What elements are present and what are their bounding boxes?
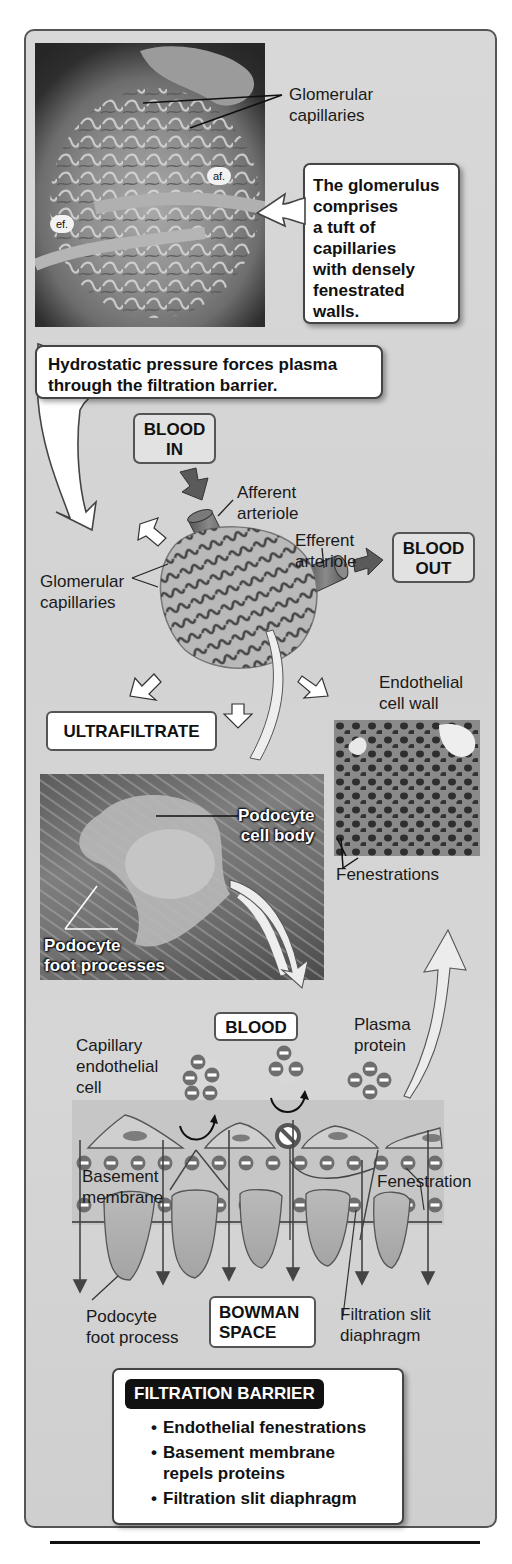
protein-cluster-1: [183, 1055, 222, 1101]
filtration-barrier-title: FILTRATION BARRIER: [125, 1379, 324, 1409]
label-basement-membrane: Basement membrane: [82, 1166, 163, 1208]
label-fenestration: Fenestration: [377, 1171, 472, 1192]
filtrate-arrow-upleft: [138, 518, 166, 546]
label-glomerular-capillaries-diagram: Glomerular capillaries: [40, 571, 124, 613]
filtration-barrier-box: FILTRATION BARRIER Endothelial fenestrat…: [112, 1368, 404, 1525]
filtrate-arrow-downleft: [130, 674, 161, 700]
arrow-podocyte-to-barrier: [230, 880, 330, 990]
barrier-item-fenestrations: Endothelial fenestrations: [151, 1417, 402, 1438]
blood-out-arrow: [353, 548, 383, 575]
filtrate-arrow-down: [224, 704, 252, 728]
label-podocyte-cell-body: Podocyte cell body: [238, 806, 315, 846]
ultrafiltrate-box: ULTRAFILTRATE: [46, 711, 217, 751]
endothelial-micrograph: [334, 720, 480, 856]
barrier-item-slit-diaphragm: Filtration slit diaphragm: [151, 1488, 402, 1509]
pressure-callout: Hydrostatic pressure forces plasma throu…: [35, 345, 383, 399]
label-glomerular-capillaries-top: Glomerular capillaries: [289, 84, 373, 126]
protein-cluster-3: [348, 1062, 392, 1100]
label-fenestrations: Fenestrations: [336, 864, 439, 885]
protein-cluster-2: [269, 1046, 304, 1085]
bowman-space-box: BOWMAN SPACE: [209, 1296, 316, 1348]
label-efferent-arteriole: Efferent arteriole: [295, 530, 356, 572]
label-afferent-arteriole: Afferent arteriole: [237, 482, 298, 524]
podocyte-feet: [0, 1180, 512, 1310]
label-endothelial-cell-wall: Endothelial cell wall: [379, 672, 463, 714]
blood-in-box: BLOOD IN: [133, 413, 216, 464]
blood-box: BLOOD: [214, 1012, 298, 1041]
glomerulus-callout: The glomerulus comprises a tuft of capil…: [303, 163, 460, 324]
filtrate-arrow-downright: [298, 676, 328, 698]
label-podocyte-foot-processes: Podocyte foot processes: [44, 936, 165, 976]
blood-in-arrow: [180, 468, 208, 500]
label-podocyte-foot-process: Podocyte foot process: [86, 1306, 179, 1348]
label-filtration-slit-diaphragm: Filtration slit diaphragm: [340, 1304, 431, 1346]
bottom-rule: [50, 1541, 480, 1544]
callout-pointer-arrow: [255, 192, 307, 232]
barrier-item-basement-membrane: Basement membrane repels proteins: [151, 1442, 402, 1484]
filtration-barrier-list: Endothelial fenestrations Basement membr…: [125, 1417, 402, 1509]
